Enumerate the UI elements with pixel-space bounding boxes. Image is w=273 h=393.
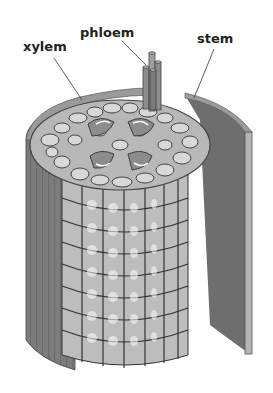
cross-section-top bbox=[30, 100, 210, 190]
label-xylem: xylem bbox=[23, 40, 67, 53]
cortex-cell-grid bbox=[62, 175, 188, 368]
label-stem: stem bbox=[197, 32, 233, 45]
vascular-tubes bbox=[143, 52, 161, 111]
label-phloem: phloem bbox=[80, 26, 134, 39]
stem-diagram bbox=[0, 0, 273, 393]
